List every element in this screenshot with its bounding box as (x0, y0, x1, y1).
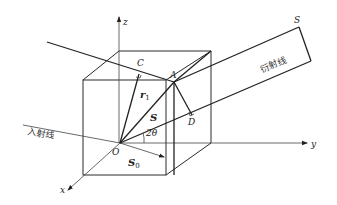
incident-ray-label: 入射线 (27, 125, 55, 141)
point-A-label: A (169, 70, 177, 80)
s0-vector-arrow (120, 143, 164, 157)
r1-label: r1 (140, 89, 150, 102)
point-D-label: D (187, 117, 195, 127)
angle-label: 2θ (145, 128, 158, 138)
axes (68, 17, 307, 190)
cube-edge-bottom-right (166, 143, 211, 175)
angle-arc-2theta (143, 133, 144, 143)
point-C-label: C (137, 58, 144, 68)
S-vector-label: S (150, 112, 157, 123)
wavefront-line-through-A (47, 42, 174, 82)
z-axis-label: z (122, 17, 128, 27)
S0-label: S0 (128, 157, 140, 170)
A-to-corner-line (174, 51, 211, 82)
diffracted-band-end (299, 27, 311, 61)
AD-line (174, 82, 192, 115)
diffracted-ray-label: 衍射线 (258, 54, 287, 75)
diffraction-geometry-diagram: z y x 入射线 衍射线 S 2θ C A D O r1 S S0 (0, 0, 337, 205)
x-axis-label: x (60, 185, 65, 195)
y-axis-label: y (310, 139, 317, 149)
diffracted-beam (120, 27, 311, 143)
origin-O-label: O (112, 147, 120, 157)
point-S-label: S (294, 15, 300, 25)
